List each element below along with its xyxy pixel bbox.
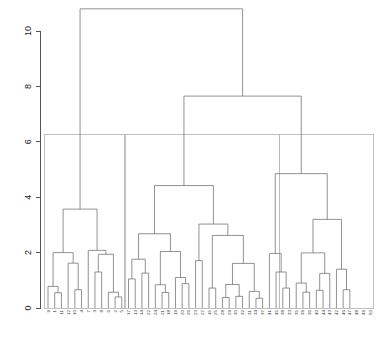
dendrogram-link: [55, 293, 62, 308]
dendrogram-link: [80, 9, 243, 209]
dendrogram-links: [48, 9, 350, 308]
leaf-label: 25: [213, 309, 218, 314]
dendrogram-link: [154, 186, 213, 234]
leaf-label: 32: [240, 309, 245, 314]
leaf-label: 1: [52, 309, 57, 312]
dendrogram-link: [236, 296, 243, 308]
y-axis-tick-label: 10: [23, 26, 33, 36]
leaf-label: 7: [86, 309, 91, 312]
leaf-label: 43: [327, 309, 332, 314]
dendrogram-link: [275, 174, 327, 254]
dendrogram-link: [63, 209, 97, 252]
dendrogram-link: [256, 298, 263, 308]
dendrogram-link: [182, 284, 189, 308]
dendrogram-link: [296, 283, 306, 308]
dendrogram-link: [303, 292, 310, 308]
dendrogram-link: [155, 285, 165, 308]
leaf-label: 9: [46, 309, 51, 312]
y-axis-tick-label: 8: [23, 84, 33, 89]
dendrogram-link: [313, 219, 342, 269]
dendrogram-canvas: 0246810 91111210473862517131422242118192…: [0, 0, 381, 339]
leaf-label: 42: [334, 309, 339, 314]
dendrogram-link: [276, 272, 286, 308]
leaf-label: 2: [113, 309, 118, 312]
dendrogram-link: [232, 263, 254, 291]
leaf-label: 49: [361, 309, 366, 314]
leaf-label: 11: [59, 309, 64, 314]
dendrogram-link: [301, 253, 324, 283]
leaf-label: 35: [294, 309, 299, 314]
leaf-label: 23: [193, 309, 198, 314]
dendrogram-link: [196, 261, 203, 308]
leaf-label: 18: [166, 309, 171, 314]
leaf-label: 15: [207, 309, 212, 314]
leaf-label: 24: [153, 309, 158, 314]
leaf-label: 36: [307, 309, 312, 314]
dendrogram-link: [222, 297, 229, 308]
dendrogram-link: [68, 263, 78, 308]
dendrogram-link: [316, 290, 323, 308]
dendrogram-plot: 0246810 91111210473862517131422242118192…: [0, 0, 381, 339]
y-axis-tick-label: 2: [23, 250, 33, 255]
leaf-label: 40: [314, 309, 319, 314]
leaf-label: 34: [253, 309, 258, 314]
dendrogram-link: [75, 290, 82, 308]
dendrogram-link: [209, 288, 216, 308]
dendrogram-link: [212, 235, 243, 288]
dendrogram-link: [160, 251, 180, 284]
leaf-label: 3: [92, 309, 97, 312]
dendrogram-link: [226, 284, 239, 297]
leaf-label: 22: [146, 309, 151, 314]
leaf-labels: 9111121047386251713142224211819202623271…: [46, 309, 373, 314]
y-axis-tick-label: 4: [23, 195, 33, 200]
dendrogram-link: [132, 259, 145, 279]
dendrogram-link: [129, 279, 136, 308]
leaf-label: 27: [200, 309, 205, 314]
dendrogram-link: [320, 273, 330, 308]
dendrogram-link: [142, 273, 149, 308]
leaf-label: 5: [119, 309, 124, 312]
dendrogram-link: [95, 272, 102, 308]
dendrogram-link: [199, 224, 228, 261]
leaf-label: 44: [321, 309, 326, 314]
leaf-label: 20: [180, 309, 185, 314]
leaf-label: 29: [227, 309, 232, 314]
leaf-label: 17: [126, 309, 131, 314]
leaf-label: 10: [72, 309, 77, 314]
leaf-label: 4: [79, 309, 84, 312]
dendrogram-link: [98, 254, 113, 292]
leaf-label: 50: [368, 309, 373, 314]
dendrogram-link: [139, 234, 171, 259]
leaf-label: 19: [173, 309, 178, 314]
leaf-label: 12: [66, 309, 71, 314]
leaf-label: 30: [233, 309, 238, 314]
leaf-label: 38: [280, 309, 285, 314]
y-axis-tick-label: 6: [23, 139, 33, 144]
dendrogram-link: [48, 286, 58, 308]
dendrogram-link: [162, 292, 169, 308]
leaf-label: 26: [186, 309, 191, 314]
dendrogram-link: [184, 96, 301, 185]
cluster-rect: [45, 135, 125, 308]
dendrogram-link: [175, 278, 185, 308]
dendrogram-link: [108, 292, 118, 308]
dendrogram-link: [283, 288, 290, 308]
leaf-label: 28: [220, 309, 225, 314]
leaf-label: 31: [247, 309, 252, 314]
dendrogram-link: [88, 250, 106, 308]
dendrogram-link: [249, 291, 259, 308]
dendrogram-link: [343, 290, 350, 308]
leaf-label: 33: [287, 309, 292, 314]
leaf-label: 45: [274, 309, 279, 314]
leaf-label: 47: [347, 309, 352, 314]
leaf-label: 8: [99, 309, 104, 312]
leaf-label: 46: [341, 309, 346, 314]
leaf-label: 48: [354, 309, 359, 314]
leaf-label: 6: [106, 309, 111, 312]
leaf-label: 37: [260, 309, 265, 314]
cluster-rectangles: [45, 135, 373, 308]
y-axis-tick-label: 0: [23, 305, 33, 310]
dendrogram-link: [336, 269, 346, 308]
leaf-label: 41: [267, 309, 272, 314]
dendrogram-link: [53, 253, 73, 287]
